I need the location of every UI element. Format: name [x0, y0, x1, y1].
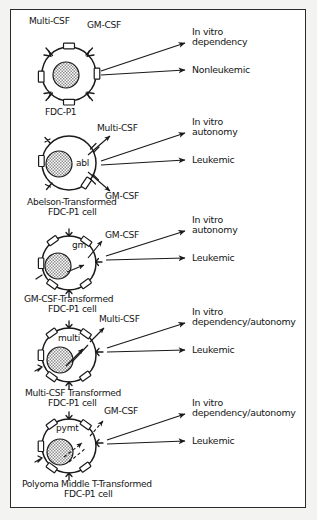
- secretion-arrow-external: [90, 328, 104, 342]
- outcome-in-vitro-line2: autonomy: [192, 224, 238, 235]
- panel-gmcsf: GM-CSF gm GM-CSF-Transformed FDC-P1 ce: [24, 214, 238, 314]
- multi-csf-label: Multi-CSF: [97, 123, 138, 133]
- leader-in-vitro: [107, 414, 185, 440]
- outcome-leukemia: Leukemic: [192, 435, 235, 446]
- leader-leukemia: [101, 160, 185, 165]
- multi-csf-label: Multi-CSF: [29, 16, 70, 26]
- cell-caption-line2: FDC-P1 cell: [48, 207, 96, 217]
- cell-caption-line2: FDC-P1 cell: [64, 489, 112, 499]
- nucleus: [47, 439, 73, 465]
- leader-in-vitro: [101, 133, 185, 161]
- cell-caption-line2: FDC-P1 cell: [48, 398, 96, 408]
- gm-csf-label: GM-CSF: [104, 406, 138, 416]
- oncogene-label: pymt: [56, 423, 79, 433]
- outcome-leukemia: Leukemic: [192, 344, 235, 355]
- nucleus: [47, 347, 73, 373]
- receptor-left: [38, 350, 43, 361]
- panel-abelson: Multi-CSF GM-CSF abl Abelson-Transformed…: [27, 116, 238, 217]
- multi-csf-label: Multi-CSF: [99, 314, 140, 324]
- secretion-arrow-external: [90, 421, 103, 436]
- outcome-leukemia: Leukemic: [192, 252, 235, 263]
- nucleus: [46, 151, 72, 177]
- diagram-svg: Multi-CSF GM-CSF FDC-P1: [0, 0, 317, 520]
- receptor-right: [94, 68, 100, 79]
- cell-caption-line1: Abelson-Transformed: [27, 197, 117, 207]
- receptor-left: [38, 71, 44, 82]
- leader-in-vitro: [101, 43, 185, 71]
- outcome-leukemia: Nonleukemic: [192, 64, 250, 75]
- oncogene-label: multi: [58, 333, 80, 343]
- cell-fdcp1: [38, 43, 99, 105]
- outcome-in-vitro-line2: dependency/autonomy: [192, 407, 296, 418]
- cell-multicsf: multi: [35, 321, 104, 389]
- leader-in-vitro: [107, 323, 185, 348]
- outcome-in-vitro-line2: dependency: [192, 36, 248, 47]
- outcome-in-vitro-line2: dependency/autonomy: [192, 316, 296, 327]
- cell-caption-line2: FDC-P1 cell: [48, 304, 96, 314]
- cell-abelson: abl: [39, 136, 110, 191]
- outcome-leukemia: Leukemic: [192, 154, 235, 165]
- cell-caption: FDC-P1: [45, 107, 76, 117]
- receptor-bottom: [64, 99, 75, 105]
- receptor-top: [64, 43, 75, 49]
- nucleus: [53, 62, 79, 88]
- oncogene-label: abl: [76, 158, 89, 168]
- receptor-left: [38, 258, 43, 269]
- cell-polyoma: pymt: [35, 412, 103, 480]
- nucleus: [45, 253, 71, 279]
- leader-leukemia: [106, 258, 185, 260]
- gm-csf-label: GM-CSF: [87, 20, 121, 30]
- figure-canvas: Multi-CSF GM-CSF FDC-P1: [0, 0, 317, 520]
- receptor-left: [39, 156, 45, 167]
- gm-csf-label: GM-CSF: [105, 230, 139, 240]
- panel-polyoma: GM-CSF pymt Polyoma Middle T-Transf: [22, 397, 296, 499]
- receptor-left: [38, 441, 43, 452]
- outcome-in-vitro-line2: autonomy: [192, 126, 238, 137]
- autocrine-multi-csf-arrow: [88, 136, 110, 155]
- cell-caption-line1: Multi-CSF Transformed: [25, 388, 121, 398]
- panel-multicsf: Multi-CSF multi Multi-CSF Transform: [25, 306, 296, 408]
- cell-gmcsf: gm: [36, 229, 102, 297]
- cell-caption-line1: GM-CSF-Transformed: [24, 294, 113, 304]
- cell-caption-line1: Polyoma Middle T-Transformed: [22, 479, 152, 489]
- leader-leukemia: [101, 70, 185, 75]
- panel-fdcp1: Multi-CSF GM-CSF FDC-P1: [29, 16, 250, 117]
- leader-leukemia: [107, 350, 185, 352]
- leader-leukemia: [107, 441, 185, 444]
